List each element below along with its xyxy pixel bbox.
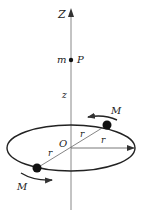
point-label: P	[76, 54, 84, 65]
radius-label-3: r	[48, 148, 53, 158]
ring-diagram: Z m P z O r r r M M	[0, 0, 142, 218]
z-axis	[68, 8, 74, 210]
diameter-line	[37, 125, 107, 168]
radius-label-1: r	[80, 129, 85, 139]
mass-top	[103, 121, 112, 130]
point-mass-label: m	[57, 54, 66, 65]
point-p-dot	[69, 58, 73, 62]
rotation-arrow-bottom-icon	[21, 173, 52, 180]
radius-label-2: r	[101, 135, 106, 145]
origin-label: O	[59, 138, 67, 149]
axis-label: Z	[57, 8, 66, 21]
rotation-arrow-top-icon	[88, 116, 117, 120]
height-label: z	[61, 90, 67, 100]
mass-bottom	[33, 164, 42, 173]
axis-arrow-icon	[68, 8, 74, 17]
mass-top-label: M	[110, 105, 122, 116]
mass-bottom-label: M	[16, 181, 28, 192]
